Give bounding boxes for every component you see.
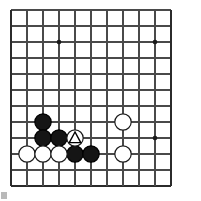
go-board-svg [0,0,201,201]
stone-black[interactable] [51,130,67,146]
stone-disc [35,130,51,146]
page-edge-artifact [1,192,7,199]
stone-white[interactable] [19,146,35,162]
stone-white[interactable] [115,146,131,162]
stone-white[interactable] [35,146,51,162]
stone-white[interactable] [51,146,67,162]
stone-white[interactable] [67,130,83,146]
go-board-diagram [0,0,201,201]
stone-black[interactable] [35,114,51,130]
stone-black[interactable] [83,146,99,162]
stone-disc [51,130,67,146]
stone-black[interactable] [35,130,51,146]
stone-disc [83,146,99,162]
stone-disc [51,146,67,162]
stone-disc [115,114,131,130]
stone-disc [115,146,131,162]
stone-white[interactable] [115,114,131,130]
stone-disc [35,114,51,130]
stone-disc [67,146,83,162]
stone-disc [19,146,35,162]
star-point [153,40,158,45]
stone-disc [35,146,51,162]
stone-black[interactable] [67,146,83,162]
star-point [57,40,62,45]
star-point [153,136,158,141]
